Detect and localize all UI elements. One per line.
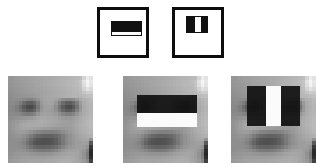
feature-band-dark-0 bbox=[187, 17, 195, 33]
feature-prototype-three-rectangle-vertical bbox=[172, 7, 224, 58]
haar-feature-figure bbox=[0, 0, 316, 167]
feature-overlay-dark-0 bbox=[247, 86, 266, 126]
face-panel-face-three-rectangle bbox=[231, 76, 316, 163]
feature-pattern-two-rectangle-horizontal bbox=[111, 21, 142, 36]
feature-overlay-light-1 bbox=[137, 113, 197, 127]
feature-overlay-dark-0 bbox=[137, 95, 197, 113]
feature-band-dark-0 bbox=[112, 22, 142, 32]
feature-band-dark-2 bbox=[201, 17, 208, 33]
feature-overlay-dark-2 bbox=[281, 86, 300, 126]
feature-band-light-1 bbox=[112, 32, 142, 36]
face-image bbox=[8, 76, 93, 163]
feature-prototype-two-rectangle-horizontal bbox=[97, 7, 149, 58]
face-panel-face-plain bbox=[8, 76, 93, 163]
feature-overlay-light-1 bbox=[266, 86, 281, 126]
feature-pattern-three-rectangle-vertical bbox=[186, 16, 208, 33]
face-panel-face-two-rectangle bbox=[123, 76, 208, 163]
